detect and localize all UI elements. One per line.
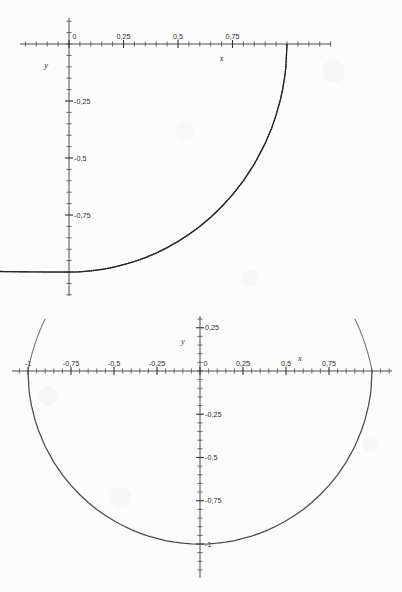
y-tick-label: -0,5 (205, 453, 217, 462)
x-tick-label: 0,5 (281, 359, 291, 368)
y-axis-label: y (43, 61, 48, 70)
x-axis-label: x (297, 354, 302, 363)
x-tick-label: -0,25 (149, 359, 165, 368)
x-tick-label: 0,25 (236, 359, 250, 368)
x-tick-label: 0,75 (322, 359, 336, 368)
chart-bottom-semicircle: -1-0,75-0,5-0,2500,250,50,750,25-0,25-0,… (0, 300, 402, 592)
page-canvas: 00,250,50,75-0,25-0,5-0,75xy -1-0,75-0,5… (0, 0, 402, 592)
x-tick-label: 0,5 (173, 32, 183, 41)
y-tick-label: -0,75 (74, 211, 90, 220)
x-tick-label: -0,75 (63, 359, 79, 368)
y-tick-label: -0,25 (74, 97, 90, 106)
y-tick-label: -0,75 (205, 496, 221, 505)
data-curve (0, 44, 287, 272)
x-axis-label: x (219, 54, 224, 63)
x-tick-label: 0,75 (226, 32, 240, 41)
y-tick-label: -0,25 (205, 410, 221, 419)
y-tick-label: 0,25 (205, 323, 219, 332)
x-tick-label: -0,5 (108, 359, 120, 368)
chart-top-svg: 00,250,50,75-0,25-0,5-0,75xy (0, 0, 402, 300)
y-tick-label: -0,5 (74, 154, 86, 163)
y-axis-label: y (180, 337, 185, 346)
x-tick-label: 0,25 (117, 32, 131, 41)
chart-top-quarter-arc: 00,250,50,75-0,25-0,5-0,75xy (0, 0, 402, 300)
x-tick-label: 0 (204, 359, 208, 368)
data-curve-dots (0, 44, 287, 272)
chart-bottom-svg: -1-0,75-0,5-0,2500,250,50,750,25-0,25-0,… (0, 300, 402, 592)
data-curve-extension-right (355, 319, 372, 371)
x-tick-label: 0 (73, 32, 77, 41)
